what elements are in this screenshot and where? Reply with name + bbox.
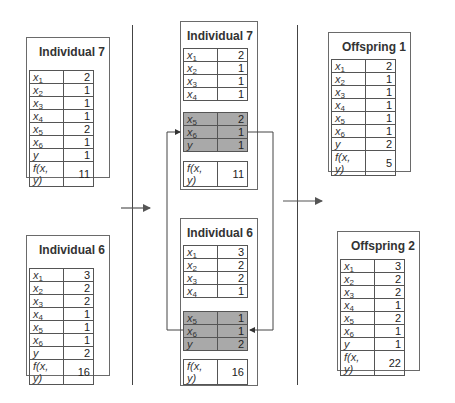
swap-connector-6-to-7 <box>167 132 183 330</box>
connector-overlay <box>0 0 455 403</box>
swap-connector-7-to-6 <box>248 132 273 330</box>
